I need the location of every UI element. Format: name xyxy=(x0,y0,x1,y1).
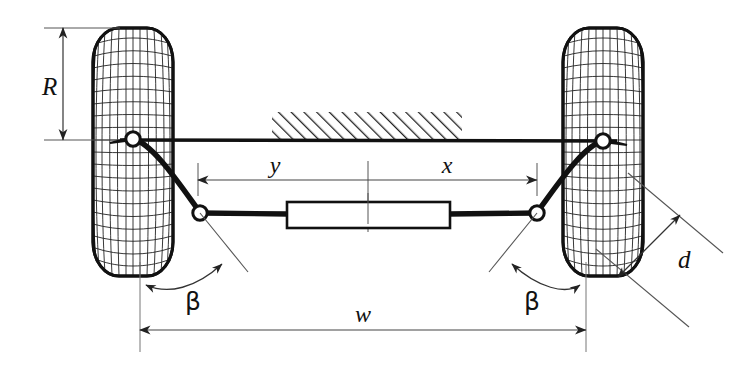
diagram-canvas: R y x xyxy=(0,0,740,378)
dimension-x-label: x xyxy=(441,152,453,178)
diagram-layers: R y x xyxy=(41,28,723,352)
left-tie-rod xyxy=(200,213,288,214)
right-kingpin-joint xyxy=(596,134,610,148)
dimension-y-label: y xyxy=(268,152,281,178)
dimension-d-extension-lower xyxy=(596,249,689,327)
angle-beta-right-label: β xyxy=(524,287,540,316)
angle-beta-left-label: β xyxy=(185,287,201,316)
dimension-R-label: R xyxy=(41,73,57,100)
right-beta-arc xyxy=(512,264,580,289)
dimension-R: R xyxy=(41,28,63,140)
axle-beam xyxy=(120,140,617,141)
left-arm-extension-line xyxy=(200,213,248,272)
vehicle-body-hatch-fill xyxy=(272,112,462,139)
dimension-w-label: w xyxy=(355,301,371,327)
steering-geometry-diagram: R y x xyxy=(0,0,740,378)
right-tie-rod xyxy=(449,213,537,214)
left-front-tire xyxy=(90,28,173,276)
right-front-tire xyxy=(563,28,646,276)
dimension-w: w xyxy=(140,301,586,330)
dimension-d-label: d xyxy=(678,246,691,273)
left-kingpin-joint xyxy=(126,132,140,146)
vehicle-body-hatch xyxy=(272,112,462,139)
right-arm-extension-line xyxy=(489,213,537,272)
